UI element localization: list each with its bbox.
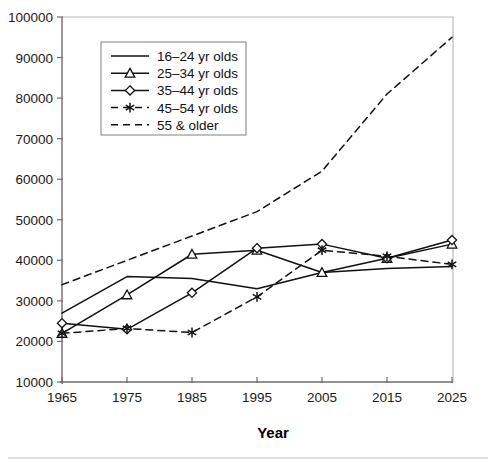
x-tick-label: 1985	[177, 390, 207, 405]
x-tick-label: 1995	[242, 390, 272, 405]
x-tick-label: 2005	[307, 390, 337, 405]
chart-canvas: 1000020000300004000050000600007000080000…	[0, 0, 496, 465]
x-tick-label: 2015	[372, 390, 402, 405]
series-line-0	[62, 266, 452, 313]
y-tick-label: 90000	[15, 51, 53, 66]
y-tick-label: 60000	[15, 172, 53, 187]
legend-label-1: 25–34 yr olds	[157, 66, 238, 81]
y-tick-label: 50000	[15, 213, 53, 228]
legend-label-4: 55 & older	[157, 118, 219, 133]
legend-label-0: 16–24 yr olds	[157, 49, 238, 64]
y-tick-label: 80000	[15, 91, 53, 106]
y-tick-label: 40000	[15, 253, 53, 268]
marker-star	[253, 292, 261, 302]
line-chart: 1000020000300004000050000600007000080000…	[0, 0, 496, 465]
legend-label-3: 45–54 yr olds	[157, 101, 238, 116]
y-tick-label: 10000	[15, 375, 53, 390]
marker-diamond	[187, 288, 196, 297]
x-tick-label: 1965	[47, 390, 77, 405]
marker-triangle	[122, 290, 132, 299]
y-tick-label: 100000	[8, 10, 53, 25]
chart-legend: 16–24 yr olds25–34 yr olds35–44 yr olds4…	[101, 42, 246, 135]
x-axis-title: Year	[257, 424, 289, 441]
y-tick-label: 70000	[15, 132, 53, 147]
data-markers-group	[57, 235, 457, 338]
legend-label-2: 35–44 yr olds	[157, 83, 238, 98]
marker-diamond	[447, 235, 456, 244]
x-tick-label: 2025	[437, 390, 467, 405]
y-tick-label: 30000	[15, 294, 53, 309]
marker-diamond	[57, 319, 66, 328]
x-tick-label: 1975	[112, 390, 142, 405]
y-tick-label: 20000	[15, 334, 53, 349]
